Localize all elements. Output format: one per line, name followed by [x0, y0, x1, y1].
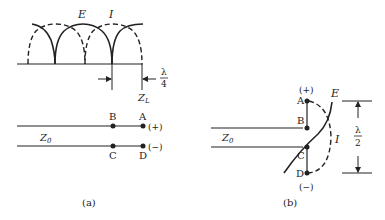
point-b: [111, 124, 116, 129]
lambda-numerator: λ: [161, 67, 167, 77]
point-b: [305, 126, 310, 131]
point-d: [141, 144, 146, 149]
polarity-plus: (+): [148, 122, 163, 132]
lambda-numerator: λ: [355, 125, 361, 135]
label-b: B: [297, 115, 304, 126]
label-i: I: [334, 133, 340, 146]
line-impedance-label: Z0: [221, 132, 234, 145]
line-impedance-label: Z0: [39, 132, 52, 145]
lambda-denominator: 2: [355, 138, 361, 148]
point-c: [111, 144, 116, 149]
label-b: B: [109, 111, 116, 122]
figure-a: E I λ 4 ZL B A C D (+) (−) Z0 (a): [17, 8, 168, 208]
label-i: I: [108, 8, 114, 21]
point-a: [141, 124, 146, 129]
label-a: A: [296, 95, 305, 106]
caption-b: (b): [283, 197, 297, 208]
load-impedance-label: ZL: [137, 92, 150, 105]
polarity-plus: (+): [299, 85, 314, 95]
label-c: C: [297, 150, 305, 161]
label-e: E: [330, 87, 339, 100]
point-a: [305, 99, 310, 104]
label-d: D: [296, 168, 304, 179]
label-e: E: [77, 8, 86, 21]
label-c: C: [109, 150, 117, 161]
label-d: D: [139, 150, 147, 161]
point-d: [305, 171, 310, 176]
label-a: A: [138, 111, 147, 122]
polarity-minus: (−): [299, 182, 314, 192]
lambda-denominator: 4: [161, 79, 167, 89]
caption-a: (a): [82, 197, 96, 208]
polarity-minus: (−): [148, 142, 163, 152]
transmission-line-diagram: E I λ 4 ZL B A C D (+) (−) Z0 (a): [0, 0, 385, 220]
figure-b: E I A B C D (+) (−) Z0 λ 2 (b): [211, 85, 372, 208]
current-wave-i: [309, 101, 331, 173]
